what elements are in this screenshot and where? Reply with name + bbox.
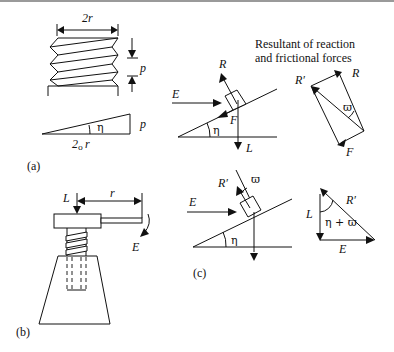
incline-force-diagram: η R E F L	[171, 57, 277, 155]
block	[225, 90, 246, 110]
jack-screw	[66, 228, 87, 257]
label-eta-plus-phi: η + ϖ	[325, 216, 357, 229]
caption-a: (a)	[27, 159, 40, 173]
pitch-dimension: p	[127, 38, 146, 92]
label-phi-para: ϖ	[343, 101, 352, 114]
resultant-arrow-icon	[236, 186, 244, 196]
effort-arrow-icon	[213, 99, 222, 107]
label-p-wedge: p	[139, 117, 146, 131]
caption-b: (b)	[16, 325, 30, 339]
arrowhead-icon	[320, 188, 328, 197]
arrowhead-icon	[134, 197, 142, 205]
label-F: F	[229, 113, 238, 127]
jack-head	[54, 214, 101, 228]
label-2r: 2r	[82, 11, 93, 25]
label-R-para: R	[351, 66, 360, 80]
reaction-arrow-icon	[219, 73, 227, 83]
arrowhead-icon	[128, 50, 136, 58]
jack-lever	[101, 218, 142, 223]
label-Rprime-c: R′	[217, 176, 228, 190]
label-r: r	[110, 186, 115, 200]
label-eta: η	[97, 121, 104, 134]
label-R: R	[218, 57, 227, 71]
diameter-dimension: 2r	[57, 11, 118, 36]
label-L: L	[245, 141, 253, 155]
friction-arrow-icon	[217, 110, 228, 118]
label-L-tri: L	[305, 207, 313, 221]
load-arrow-icon	[73, 206, 81, 214]
screw-thread-diagram: 2r	[0, 0, 394, 352]
label-L-jack: L	[62, 191, 70, 205]
label-eta-c: η	[231, 234, 238, 247]
caption-c: (c)	[193, 266, 206, 280]
load-arrow-icon	[234, 142, 242, 150]
unrolled-wedge: η p 2 o r	[42, 114, 146, 152]
arrowhead-icon	[77, 197, 85, 205]
effort-arrow-icon	[228, 208, 237, 216]
label-circ-r: r	[85, 137, 90, 151]
arrowhead-icon	[111, 26, 118, 34]
label-F-para: F	[345, 145, 354, 159]
panel-c: η R′ ϖ E (c)	[187, 170, 292, 280]
label-E-c: E	[188, 195, 197, 209]
note-line-2: and frictional forces	[255, 51, 352, 65]
load-arrow-icon	[250, 253, 258, 261]
label-eta-incline: η	[213, 124, 220, 137]
label-phi-c: ϖ	[251, 173, 260, 186]
label-E-tri: E	[338, 242, 347, 256]
label-Rprime-tri: R′	[345, 193, 356, 207]
arrowhead-icon	[128, 76, 136, 84]
label-p-pitch: p	[139, 61, 146, 75]
block	[240, 196, 261, 217]
label-E-jack: E	[131, 240, 140, 254]
thread-body	[48, 38, 118, 96]
force-triangle: L R′ η + ϖ E	[305, 188, 375, 256]
effort-arrow-icon	[140, 228, 149, 237]
label-Rprime-para: R′	[294, 73, 305, 87]
panel-a: 2r	[27, 11, 146, 173]
note-line-1: Resultant of reaction	[255, 37, 355, 51]
arrowhead-icon	[366, 236, 375, 244]
label-circ-pi: o	[78, 143, 83, 152]
arrowhead-icon	[57, 26, 64, 34]
resultant-parallelogram: R R′ ϖ F	[294, 66, 364, 159]
resultant-arrow-icon	[311, 86, 320, 95]
panel-b: r L E (b)	[16, 186, 149, 339]
label-E: E	[171, 87, 180, 101]
